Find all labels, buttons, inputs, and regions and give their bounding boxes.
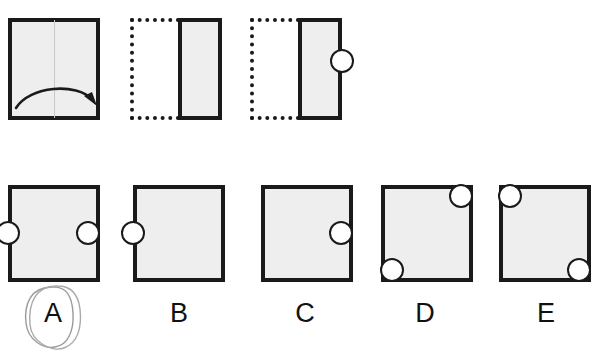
stimulus-panel-3 bbox=[240, 0, 360, 140]
hole-bottom-right bbox=[567, 258, 591, 282]
hole-right-middle bbox=[76, 221, 100, 245]
punch-hole bbox=[330, 49, 354, 73]
hole-right-middle bbox=[329, 221, 353, 245]
hole-top-right bbox=[449, 184, 473, 208]
ghost-folded-half bbox=[250, 18, 300, 120]
option-d[interactable]: D bbox=[373, 170, 493, 333]
option-label-d: D bbox=[405, 300, 445, 327]
option-label-c: C bbox=[285, 300, 325, 327]
hole-left-middle bbox=[121, 221, 145, 245]
hole-bottom-left bbox=[380, 258, 404, 282]
stimulus-panel-1 bbox=[0, 0, 120, 140]
option-b[interactable]: B bbox=[120, 170, 240, 333]
option-c[interactable]: C bbox=[253, 170, 373, 333]
stimulus-panel-2 bbox=[120, 0, 240, 140]
ghost-folded-half bbox=[130, 18, 180, 120]
hole-top-left bbox=[498, 184, 522, 208]
option-label-a: A bbox=[33, 300, 73, 327]
folded-paper-rect bbox=[178, 18, 222, 120]
option-paper-square bbox=[133, 185, 225, 282]
option-e[interactable]: E bbox=[491, 170, 600, 333]
fold-arrow-icon bbox=[0, 0, 120, 140]
option-a[interactable]: A bbox=[0, 170, 120, 333]
option-label-b: B bbox=[159, 300, 199, 327]
option-label-e: E bbox=[526, 300, 566, 327]
